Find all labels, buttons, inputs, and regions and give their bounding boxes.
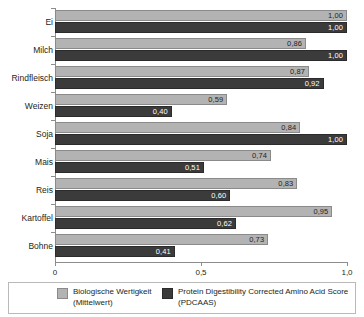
category-label: Ei [0, 8, 53, 36]
bar-pdcaas: 1,00 [55, 22, 347, 33]
bar-pdcaas: 0,41 [55, 246, 175, 257]
bar-group: Bohne0,730,41 [55, 232, 347, 260]
bar-biologische-wertigkeit: 0,84 [55, 122, 300, 133]
category-label: Bohne [0, 232, 53, 260]
bar-group: Mais0,740,51 [55, 148, 347, 176]
bar-value-label: 0,92 [305, 79, 323, 88]
bar-value-label: 0,84 [281, 123, 299, 132]
legend-label-biologische-wertigkeit: Biologische Wertigkeit(Mittelwert) [73, 287, 152, 308]
bar-value-label: 0,60 [211, 191, 229, 200]
bar-value-label: 0,87 [290, 67, 308, 76]
bar-biologische-wertigkeit: 0,95 [55, 206, 332, 217]
bar-biologische-wertigkeit: 0,59 [55, 94, 227, 105]
bar-value-label: 0,59 [208, 95, 226, 104]
bar-group: Kartoffel0,950,62 [55, 204, 347, 232]
bar-pdcaas: 1,00 [55, 50, 347, 61]
bar-biologische-wertigkeit: 0,86 [55, 38, 306, 49]
x-axis-tick-label: 0 [53, 268, 57, 277]
category-label: Milch [0, 36, 53, 64]
bar-value-label: 0,83 [278, 179, 296, 188]
bar-value-label: 0,41 [156, 247, 174, 256]
category-label: Rindfleisch [0, 64, 53, 92]
bar-pdcaas: 0,62 [55, 218, 236, 229]
bar-group: Reis0,830,60 [55, 176, 347, 204]
bar-chart: Ei1,001,00Milch0,861,00Rindfleisch0,870,… [0, 0, 364, 317]
bar-value-label: 0,62 [217, 219, 235, 228]
bar-value-label: 0,51 [185, 163, 203, 172]
bar-biologische-wertigkeit: 0,87 [55, 66, 309, 77]
category-label: Kartoffel [0, 204, 53, 232]
bar-pdcaas: 0,51 [55, 162, 204, 173]
category-label: Mais [0, 148, 53, 176]
legend-item-pdcaas: Protein Digestibility Corrected Amino Ac… [162, 287, 348, 308]
bar-biologische-wertigkeit: 0,74 [55, 150, 271, 161]
bar-value-label: 1,00 [328, 51, 346, 60]
bar-value-label: 1,00 [328, 23, 346, 32]
x-axis-tick-label: 0,5 [195, 268, 206, 277]
bar-group: Rindfleisch0,870,92 [55, 64, 347, 92]
chart-legend: Biologische Wertigkeit(Mittelwert) Prote… [8, 282, 356, 314]
legend-swatch-dark-icon [162, 288, 173, 299]
bar-group: Weizen0,590,40 [55, 92, 347, 120]
bar-value-label: 0,74 [252, 151, 270, 160]
bar-value-label: 0,40 [153, 107, 171, 116]
x-axis-tick [55, 262, 56, 266]
bar-value-label: 0,95 [313, 207, 331, 216]
bar-group: Milch0,861,00 [55, 36, 347, 64]
bar-value-label: 0,86 [287, 39, 305, 48]
x-axis-tick [201, 262, 202, 266]
legend-item-biologische-wertigkeit: Biologische Wertigkeit(Mittelwert) [57, 287, 152, 308]
plot-area: Ei1,001,00Milch0,861,00Rindfleisch0,870,… [55, 8, 347, 262]
bar-value-label: 1,00 [328, 11, 346, 20]
legend-swatch-light-icon [57, 288, 68, 299]
legend-label-pdcaas: Protein Digestibility Corrected Amino Ac… [178, 287, 348, 308]
bar-value-label: 1,00 [328, 135, 346, 144]
x-axis-tick-label: 1,0 [341, 268, 352, 277]
category-label: Reis [0, 176, 53, 204]
bar-biologische-wertigkeit: 1,00 [55, 10, 347, 21]
x-axis-tick [347, 262, 348, 266]
bar-biologische-wertigkeit: 0,73 [55, 234, 268, 245]
bar-pdcaas: 0,40 [55, 106, 172, 117]
bar-group: Ei1,001,00 [55, 8, 347, 36]
bar-pdcaas: 1,00 [55, 134, 347, 145]
category-label: Soja [0, 120, 53, 148]
bar-pdcaas: 0,60 [55, 190, 230, 201]
category-label: Weizen [0, 92, 53, 120]
bar-group: Soja0,841,00 [55, 120, 347, 148]
bar-pdcaas: 0,92 [55, 78, 324, 89]
bar-biologische-wertigkeit: 0,83 [55, 178, 297, 189]
bar-value-label: 0,73 [249, 235, 267, 244]
